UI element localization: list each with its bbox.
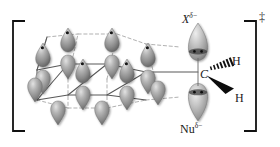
electron-dot (41, 46, 44, 49)
hydrogen-label-top: H (232, 55, 241, 67)
transition-state-illustration (0, 0, 280, 147)
central-carbon-label: C (200, 68, 208, 80)
leaving-group-label: Xδ− (182, 12, 197, 25)
nucleophile-label: Nuδ− (180, 122, 202, 135)
hydrogen-label-bottom: H (235, 92, 244, 104)
electron-dot (81, 62, 84, 65)
electron-dot (125, 62, 128, 65)
figure-canvas: Xδ− Nuδ− C H H ‡ (0, 0, 280, 147)
transition-state-dagger: ‡ (259, 11, 265, 23)
electron-dot (66, 31, 69, 34)
electron-dot (146, 46, 149, 49)
electron-dot (110, 31, 113, 34)
